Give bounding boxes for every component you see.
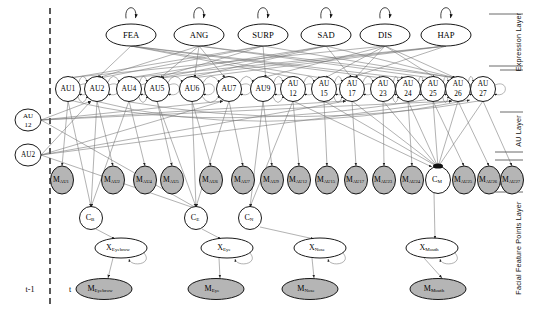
edge-convergence-marker xyxy=(433,163,443,168)
self-loop-arc xyxy=(126,8,136,19)
time-label-previous: t-1 xyxy=(26,285,35,294)
au-node-au17-label-line2: 17 xyxy=(348,89,356,98)
self-loop-arc xyxy=(258,8,268,19)
au-node-au15-label-line1: AU xyxy=(319,79,330,88)
prev-au-node-au12-label-line1: AU xyxy=(23,112,33,120)
expression-node-label-sad: SAD xyxy=(317,30,334,40)
au-node-au9-label: AU9 xyxy=(256,84,271,93)
au-node-au4-label: AU4 xyxy=(122,84,137,93)
au-node-au27-label-line1: AU xyxy=(478,79,489,88)
self-loop-arc xyxy=(321,8,331,19)
au-node-au25-label-line2: 25 xyxy=(429,89,437,98)
au-node-au5-label: AU5 xyxy=(150,84,165,93)
au-node-au24-label-line2: 24 xyxy=(404,89,412,98)
au-node-au26-label-line1: AU xyxy=(453,79,464,88)
au-node-au26-label-line2: 26 xyxy=(454,89,462,98)
self-loop-arc xyxy=(441,8,451,19)
layer-label-au: AU Layer xyxy=(514,115,523,147)
au-node-au2-label: AU2 xyxy=(90,84,105,93)
time-label-current: t xyxy=(69,285,72,294)
au-node-au17-label-line1: AU xyxy=(347,79,358,88)
au-node-au12-label-line2: 12 xyxy=(289,89,297,98)
layer-label-feature-points: Facial Feature Points Layer xyxy=(514,201,523,295)
dbn-diagram-canvas: FEAANGSURPSADDISHAPAU1AU2AU4AU5AU6AU7AU9… xyxy=(0,0,534,316)
layer-label-expression: Expression Layer xyxy=(514,12,523,71)
self-loop-arc xyxy=(380,8,390,19)
au-node-au23-label-line2: 23 xyxy=(379,89,387,98)
au-node-au7-label: AU7 xyxy=(222,84,237,93)
expression-node-label-ang: ANG xyxy=(190,30,209,40)
expression-node-label-hap: HAP xyxy=(437,30,454,40)
diagram-svg: FEAANGSURPSADDISHAPAU1AU2AU4AU5AU6AU7AU9… xyxy=(0,0,534,316)
au-node-au15-label-line2: 15 xyxy=(320,89,328,98)
prev-au-node-au2-label: AU2 xyxy=(21,151,35,159)
au-node-au23-label-line1: AU xyxy=(378,79,389,88)
au-node-au6-label: AU6 xyxy=(185,84,200,93)
au-node-au12-label-line1: AU xyxy=(288,79,299,88)
au-node-au1-label: AU1 xyxy=(61,84,76,93)
prev-au-node-au12-label-line2: 12 xyxy=(25,121,33,129)
au-node-au24-label-line1: AU xyxy=(403,79,414,88)
expression-node-label-surp: SURP xyxy=(252,30,274,40)
expression-node-label-fea: FEA xyxy=(123,30,140,40)
expression-node-label-dis: DIS xyxy=(378,30,392,40)
au-node-au25-label-line1: AU xyxy=(428,79,439,88)
au-node-au27-label-line2: 27 xyxy=(479,89,487,98)
self-loop-arc xyxy=(194,8,204,19)
